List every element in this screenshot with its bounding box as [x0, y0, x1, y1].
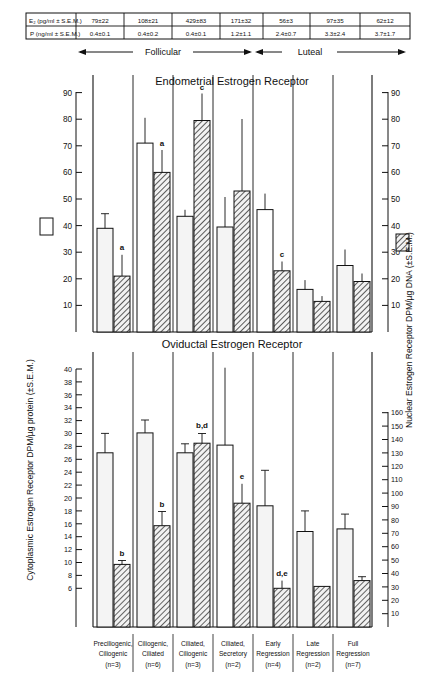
- y-tick-left: 6: [68, 584, 72, 593]
- bar-nuclear: [154, 526, 170, 627]
- x-label-line1: Preciliogenic,: [93, 640, 132, 648]
- table-cell-e2: 97±35: [326, 17, 344, 24]
- x-label-line1: Ciliated,: [221, 640, 245, 647]
- x-label-line2: Regression: [256, 650, 290, 658]
- y-tick-right: 80: [391, 516, 399, 525]
- y-tick-left: 14: [64, 532, 72, 541]
- y-tick-right: 60: [391, 542, 399, 551]
- bar-nuclear: [314, 586, 330, 627]
- y-tick-left: 32: [64, 416, 72, 425]
- table-cell-e2: 62±12: [376, 17, 394, 24]
- bar-cytoplasmic: [137, 143, 153, 332]
- y-tick-left: 10: [63, 301, 73, 310]
- y-tick-right: 140: [391, 435, 403, 444]
- y-tick-left: 10: [64, 558, 72, 567]
- y-tick-left: 34: [64, 403, 72, 412]
- x-label-n: (n=3): [105, 661, 121, 669]
- y-tick-left: 36: [64, 391, 72, 400]
- table-cell-p: 0.4±0.1: [186, 30, 207, 37]
- y-tick-right: 20: [391, 596, 399, 605]
- y-tick-left: 60: [63, 168, 73, 177]
- y-tick-left: 30: [63, 248, 73, 257]
- table-cell-e2: 171±32: [231, 17, 252, 24]
- y-tick-left: 28: [64, 442, 72, 451]
- y-axis-title-left: Cytoplasmic Estrogen Receptor DPM/µg pro…: [25, 359, 35, 581]
- significance-annotation: d,e: [276, 569, 288, 578]
- y-tick-left: 40: [64, 365, 72, 374]
- legend-swatch-cytoplasmic: [40, 218, 53, 235]
- x-label-n: (n=3): [185, 661, 201, 669]
- bar-nuclear: [234, 191, 250, 332]
- y-tick-right: 50: [391, 195, 401, 204]
- bar-nuclear: [114, 564, 130, 627]
- y-tick-right: 90: [391, 89, 401, 98]
- bar-cytoplasmic: [177, 216, 193, 332]
- table-row-label-e2: E₂ (pg/ml ± S.E.M.): [29, 17, 82, 24]
- y-tick-right: 50: [391, 556, 399, 565]
- bar-cytoplasmic: [257, 210, 273, 332]
- y-tick-left: 24: [64, 468, 72, 477]
- bar-cytoplasmic: [337, 266, 353, 333]
- x-label-n: (n=6): [145, 661, 161, 669]
- bar-nuclear: [314, 301, 330, 332]
- y-tick-left: 12: [64, 545, 72, 554]
- significance-annotation: b: [160, 500, 165, 509]
- y-tick-left: 50: [63, 195, 73, 204]
- x-label-n: (n=4): [265, 661, 281, 669]
- x-label-line2: Ciliated: [142, 650, 164, 657]
- significance-annotation: b,d: [196, 421, 208, 430]
- bar-cytoplasmic: [217, 445, 233, 627]
- y-tick-left: 22: [64, 481, 72, 490]
- y-tick-left: 40: [63, 222, 73, 231]
- y-tick-right: 60: [391, 168, 401, 177]
- x-label-line1: Late: [307, 640, 320, 647]
- bar-cytoplasmic: [97, 453, 113, 627]
- x-label-line1: Early: [265, 640, 281, 648]
- figure-svg: E₂ (pg/ml ± S.E.M.) P (ng/ml ± S.E.M.) 7…: [0, 0, 421, 691]
- y-tick-right: 150: [391, 422, 403, 431]
- bar-cytoplasmic: [337, 529, 353, 627]
- y-tick-right: 40: [391, 569, 399, 578]
- x-label-line2: Secretory: [219, 650, 248, 658]
- x-label-line1: Ciliated,: [181, 640, 205, 647]
- significance-annotation: b: [120, 549, 125, 558]
- chart-title-endometrial: Endometrial Estrogen Receptor: [155, 75, 309, 87]
- table-cell-p: 3.3±2.4: [325, 30, 346, 37]
- bar-nuclear: [354, 581, 370, 627]
- significance-annotation: a: [120, 243, 125, 252]
- y-tick-right: 40: [391, 222, 401, 231]
- y-tick-right: 100: [391, 489, 403, 498]
- bar-nuclear: [354, 282, 370, 333]
- table-cell-p: 0.4±0.2: [138, 30, 159, 37]
- y-tick-right: 10: [391, 301, 401, 310]
- bar-cytoplasmic: [297, 289, 313, 332]
- significance-annotation: c: [200, 83, 205, 92]
- y-tick-right: 10: [391, 609, 399, 618]
- y-tick-right: 70: [391, 529, 399, 538]
- figure-root: E₂ (pg/ml ± S.E.M.) P (ng/ml ± S.E.M.) 7…: [0, 0, 421, 691]
- x-label-line1: Ciliogenic,: [138, 640, 169, 648]
- table-cell-e2: 108±21: [138, 17, 159, 24]
- bar-nuclear: [234, 503, 250, 627]
- bar-nuclear: [194, 121, 210, 333]
- x-label-n: (n=7): [345, 661, 361, 669]
- bar-nuclear: [154, 172, 170, 332]
- x-label-n: (n=2): [305, 661, 321, 669]
- significance-annotation: a: [160, 139, 165, 148]
- table-cell-e2: 79±22: [91, 17, 109, 24]
- table-cell-e2: 429±83: [186, 17, 207, 24]
- y-tick-right: 80: [391, 115, 401, 124]
- y-tick-right: 90: [391, 502, 399, 511]
- bar-cytoplasmic: [137, 433, 153, 627]
- significance-annotation: e: [240, 472, 245, 481]
- table-cell-p: 1.2±1.1: [231, 30, 252, 37]
- y-tick-left: 90: [63, 89, 73, 98]
- y-tick-left: 20: [63, 275, 73, 284]
- bar-cytoplasmic: [217, 227, 233, 332]
- chart-title-oviductal: Oviductal Estrogen Receptor: [162, 338, 303, 350]
- bar-nuclear: [114, 276, 130, 332]
- table-cell-p: 2.4±0.7: [276, 30, 297, 37]
- y-tick-right: 30: [391, 583, 399, 592]
- y-tick-left: 18: [64, 507, 72, 516]
- y-axis-title-right: Nuclear Estrogen Receptor DPM/µg DNA (±S…: [404, 232, 414, 428]
